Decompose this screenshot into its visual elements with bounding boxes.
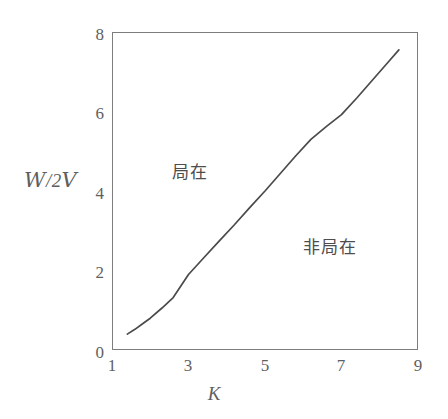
x-tick-7: 7 <box>326 357 356 374</box>
y-tick-8: 8 <box>78 26 104 43</box>
y-tick-6: 6 <box>78 105 104 122</box>
annotation-delocalized: 非局在 <box>303 233 357 258</box>
x-tick-1: 1 <box>97 357 127 374</box>
y-axis-title-denominator: V <box>62 168 78 192</box>
figure-canvas: 0 2 4 6 8 1 3 5 7 9 W/2V K 局在 非局在 <box>0 0 448 419</box>
x-axis-ticks: 1 3 5 7 9 <box>112 357 418 381</box>
y-tick-4: 4 <box>78 185 104 202</box>
x-axis-title: K <box>0 383 448 405</box>
phase-boundary-curve <box>127 50 399 334</box>
y-axis-title: W/2V <box>24 168 77 192</box>
x-tick-3: 3 <box>173 357 203 374</box>
x-tick-9: 9 <box>403 357 433 374</box>
caption-fragment <box>0 406 448 419</box>
x-axis-title-text: K <box>208 383 221 405</box>
x-tick-5: 5 <box>250 357 280 374</box>
annotation-localized: 局在 <box>172 158 208 183</box>
y-axis-title-separator: /2 <box>46 170 62 191</box>
y-tick-2: 2 <box>78 264 104 281</box>
y-axis-title-numerator: W <box>24 168 46 192</box>
phase-boundary-curve-layer <box>112 32 418 350</box>
